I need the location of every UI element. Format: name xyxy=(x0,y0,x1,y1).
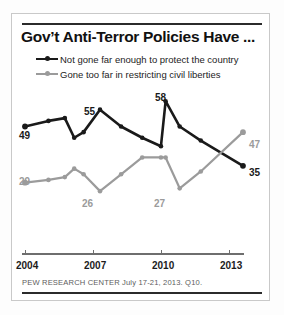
x-axis-tick-2010 xyxy=(161,250,162,255)
data-label-gray-26: 26 xyxy=(82,198,93,209)
data-point xyxy=(177,124,182,129)
x-axis-tick-2013 xyxy=(229,250,230,255)
data-point xyxy=(163,155,168,160)
data-point xyxy=(46,178,51,183)
bottom-rule xyxy=(22,292,262,294)
data-point xyxy=(63,116,68,121)
chart-figure: Gov’t Anti-Terror Policies Have ... Not … xyxy=(0,0,284,315)
data-label-dark-end: 35 xyxy=(249,167,260,178)
data-point xyxy=(46,119,51,124)
data-point xyxy=(240,129,246,135)
data-label-dark-start: 49 xyxy=(19,130,30,141)
x-axis-label-2004: 2004 xyxy=(16,260,38,271)
legend-marker-dark-icon xyxy=(36,54,58,64)
x-axis-label-2010: 2010 xyxy=(152,260,174,271)
data-point xyxy=(177,186,182,191)
legend-item-gone-too-far: Gone too far in restricting civil libert… xyxy=(36,67,272,81)
data-point xyxy=(98,189,103,194)
title-top-rule xyxy=(22,23,262,25)
data-point xyxy=(72,135,77,140)
legend-marker-gray-icon xyxy=(36,69,58,79)
data-label-gray-start: 29 xyxy=(19,176,30,187)
x-axis-tick-2007 xyxy=(93,250,94,255)
chart-legend: Not gone far enough to protect the count… xyxy=(36,52,272,82)
data-point xyxy=(198,138,203,143)
chart-title: Gov’t Anti-Terror Policies Have ... xyxy=(21,28,265,46)
data-point xyxy=(159,155,164,160)
data-point xyxy=(98,107,103,112)
legend-label-gone-too-far: Gone too far in restricting civil libert… xyxy=(60,69,221,80)
data-label-gray-27: 27 xyxy=(154,198,165,209)
x-axis-label-2013: 2013 xyxy=(220,260,242,271)
data-point xyxy=(81,130,86,135)
source-note: PEW RESEARCH CENTER July 17-21, 2013. Q1… xyxy=(22,278,202,287)
data-point xyxy=(72,166,77,171)
data-point xyxy=(22,124,28,130)
data-point xyxy=(198,169,203,174)
data-label-gray-end: 47 xyxy=(249,139,260,150)
x-axis-label-2007: 2007 xyxy=(84,260,106,271)
data-point xyxy=(140,135,145,140)
data-point xyxy=(119,172,124,177)
x-axis-tick-2004 xyxy=(25,250,26,255)
series-line-0 xyxy=(25,101,243,166)
data-point xyxy=(140,155,145,160)
series-line-1 xyxy=(25,132,243,191)
legend-label-not-gone-far-enough: Not gone far enough to protect the count… xyxy=(60,54,239,65)
data-point xyxy=(119,124,124,129)
plot-svg xyxy=(11,84,270,214)
data-point xyxy=(81,172,86,177)
data-label-dark-55: 55 xyxy=(84,106,95,117)
data-label-dark-58: 58 xyxy=(155,92,166,103)
x-axis-line xyxy=(22,253,244,255)
legend-item-not-gone-far-enough: Not gone far enough to protect the count… xyxy=(36,52,272,66)
data-point xyxy=(159,144,164,149)
plot-area xyxy=(11,84,270,214)
data-point xyxy=(240,163,246,169)
data-point xyxy=(63,175,68,180)
